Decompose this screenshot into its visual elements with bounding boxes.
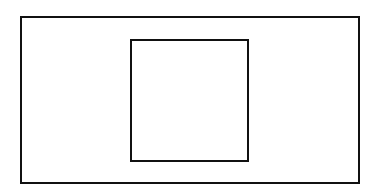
inner-square [130, 39, 249, 162]
